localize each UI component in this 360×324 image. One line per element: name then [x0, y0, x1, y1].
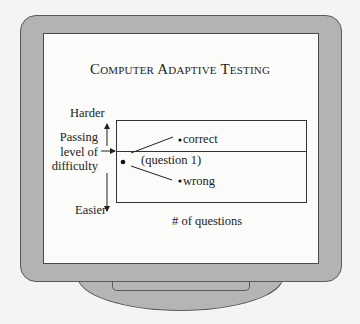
x-axis-label: # of questions — [172, 214, 242, 228]
correct-dot-icon — [178, 138, 181, 141]
wrong-dot-icon — [178, 179, 181, 182]
question-1-label: (question 1) — [141, 153, 201, 167]
question-1-dot-icon — [121, 160, 126, 165]
wrong-label: wrong — [183, 174, 215, 188]
correct-connector — [131, 137, 173, 153]
wrong-connector — [131, 166, 172, 180]
correct-label: correct — [183, 132, 218, 146]
